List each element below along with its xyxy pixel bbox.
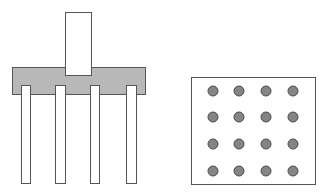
pile-plan-dot-r4-c3 (261, 166, 271, 176)
pile-embed-3 (91, 86, 100, 95)
pile-plan-dot-r3-c4 (288, 139, 298, 149)
pile-plan-dot-r4-c2 (234, 166, 244, 176)
pile-plan-dot-r2-c1 (208, 112, 218, 122)
plan-view (192, 78, 316, 185)
pile-4 (127, 86, 137, 184)
pile-embed-2 (56, 86, 66, 95)
pile-plan-dot-r3-c1 (208, 139, 218, 149)
pile-plan-dot-r1-c1 (208, 86, 218, 96)
pile-2 (56, 86, 66, 184)
pile-plan-dot-r2-c4 (288, 112, 298, 122)
elevation-view (13, 13, 146, 184)
pile-plan-dot-r4-c1 (208, 166, 218, 176)
pile-plan-dot-r2-c2 (234, 112, 244, 122)
column (66, 13, 92, 76)
pile-plan-dot-r1-c2 (234, 86, 244, 96)
pile-foundation-diagram (0, 0, 329, 195)
pile-3 (91, 86, 100, 184)
pile-plan-dot-r3-c2 (234, 139, 244, 149)
pile-1 (22, 86, 31, 184)
pile-plan-dot-r1-c4 (288, 86, 298, 96)
pile-embed-4 (127, 86, 137, 95)
pile-embed-1 (22, 86, 31, 95)
pile-plan-dot-r1-c3 (261, 86, 271, 96)
pile-plan-dot-r3-c3 (261, 139, 271, 149)
pile-plan-dot-r2-c3 (261, 112, 271, 122)
pile-plan-dot-r4-c4 (288, 166, 298, 176)
